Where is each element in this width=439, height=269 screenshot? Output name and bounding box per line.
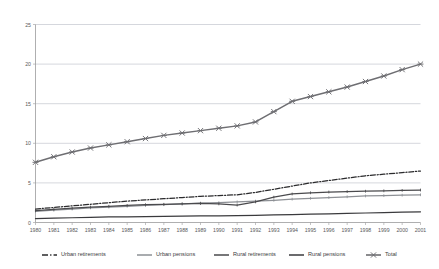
x-tick-label: 1989 [195,227,207,233]
x-tick-label: 1999 [378,227,390,233]
legend-label: Urban retirements [61,251,106,257]
x-tick-label: 2000 [396,227,408,233]
x-tick-label: 1985 [121,227,133,233]
legend-label: Total [385,251,397,257]
x-tick-label: 1984 [103,227,115,233]
x-tick-label: 1995 [305,227,317,233]
x-tick-label: 1980 [30,227,42,233]
x-tick-label: 1982 [66,227,78,233]
x-tick-label: 1996 [323,227,335,233]
x-tick-label: 1988 [176,227,188,233]
x-tick-label: 1991 [231,227,243,233]
y-tick-label: 0 [28,220,31,226]
y-tick-label: 15 [25,101,31,107]
y-tick-label: 25 [25,22,31,28]
x-tick-label: 1986 [140,227,152,233]
x-tick-label: 1992 [250,227,262,233]
x-tick-label: 1983 [85,227,97,233]
x-tick-label: 1998 [360,227,372,233]
x-tick-label: 2001 [415,227,427,233]
chart-canvas: 0510152025 19801981198219831984198519861… [0,0,439,269]
x-tick-label: 1994 [286,227,298,233]
x-tick-label: 1990 [213,227,225,233]
legend-label: Rural pensions [308,251,346,257]
y-tick-label: 10 [25,140,31,146]
y-tick-label: 20 [25,61,31,67]
line-chart: 0510152025 19801981198219831984198519861… [0,0,439,269]
x-tick-label: 1981 [48,227,60,233]
y-tick-label: 5 [28,180,31,186]
x-tick-label: 1997 [341,227,353,233]
legend-label: Urban pensions [156,251,195,257]
x-tick-label: 1987 [158,227,170,233]
legend-label: Rural retirements [233,251,276,257]
x-tick-label: 1993 [268,227,280,233]
